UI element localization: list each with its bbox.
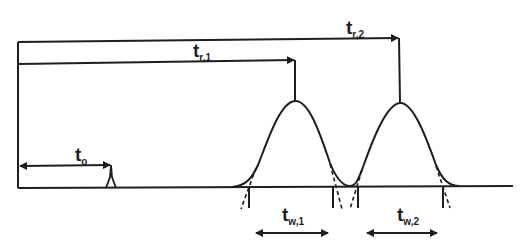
label-tr1: tr,1	[193, 40, 211, 63]
width-ticks	[249, 186, 443, 208]
tr1-arrow	[18, 60, 294, 64]
peak-2	[350, 103, 460, 186]
label-t0: to	[75, 144, 87, 167]
tr2-drop-line	[399, 38, 400, 103]
label-tr2: tr,2	[346, 17, 364, 40]
label-tw2: tw,2	[397, 204, 420, 227]
t0-arrow	[20, 165, 110, 166]
tr2-arrow	[18, 38, 398, 42]
chromatogram-diagram: tr,2 tr,1 to tw,1 tw,2	[0, 0, 526, 250]
baseline	[18, 186, 513, 188]
label-tw1: tw,1	[282, 204, 305, 227]
dead-time-peak	[106, 165, 116, 188]
